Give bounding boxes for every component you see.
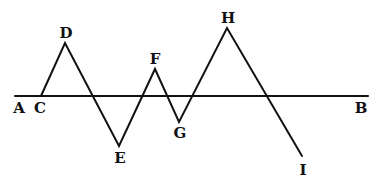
label-e: E <box>114 149 125 167</box>
zigzag-path <box>41 28 302 156</box>
label-i: I <box>299 161 306 179</box>
label-g: G <box>174 124 187 142</box>
label-f: F <box>150 50 161 68</box>
label-d: D <box>59 24 72 42</box>
zigzag-line-diagram: A C D E F G H I B <box>0 0 379 188</box>
label-b: B <box>355 99 368 117</box>
label-c: C <box>34 99 46 117</box>
label-a: A <box>12 99 25 117</box>
label-h: H <box>221 9 235 27</box>
